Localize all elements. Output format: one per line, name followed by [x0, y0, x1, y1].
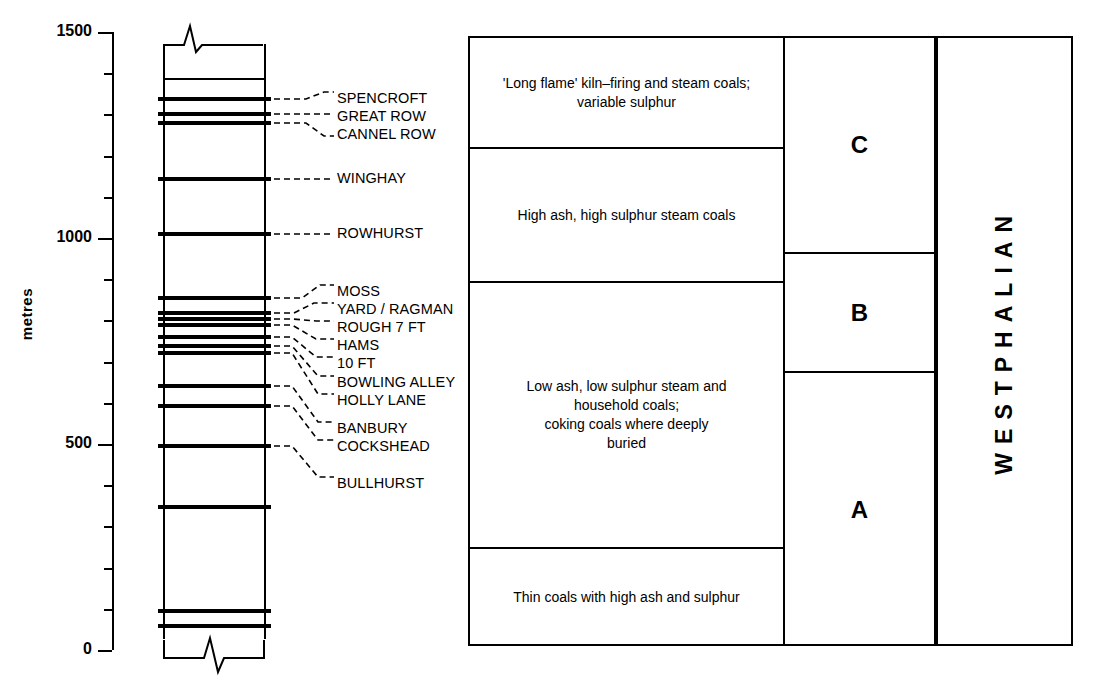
coal-seam-band	[158, 112, 271, 116]
coal-seam-band	[158, 624, 271, 628]
description-text: 'Long flame' kiln–firing and steam coals…	[493, 74, 760, 112]
description-cell: 'Long flame' kiln–firing and steam coals…	[470, 38, 783, 147]
coal-seam-band	[158, 505, 271, 509]
seam-label: ROWHURST	[337, 225, 423, 241]
axis-tick-major	[98, 444, 112, 446]
log-column-right-edge	[264, 44, 266, 639]
seam-label: ROUGH 7 FT	[337, 319, 426, 335]
axis-tick-label: 1500	[34, 22, 92, 40]
log-column-left-edge	[163, 44, 165, 639]
axis-tick-minor	[104, 485, 112, 487]
seam-label: GREAT ROW	[337, 108, 426, 124]
seam-label: BANBURY	[337, 420, 408, 436]
coal-seam-band	[158, 311, 271, 315]
axis-tick-major	[98, 650, 112, 652]
coal-seam-band	[158, 296, 271, 300]
seam-label: 10 FT	[337, 355, 375, 371]
coal-seam-band	[158, 97, 271, 101]
seam-label: COCKSHEAD	[337, 438, 430, 454]
seam-label: HOLLY LANE	[337, 392, 426, 408]
axis-tick-minor	[104, 609, 112, 611]
stage-cell-b: B	[785, 254, 934, 371]
stage-letter: A	[851, 496, 868, 524]
axis-spine	[112, 32, 114, 650]
description-cell: High ash, high sulphur steam coals	[470, 149, 783, 281]
axis-title-metres: metres	[18, 288, 35, 340]
coal-seam-band	[158, 444, 271, 448]
axis-tick-minor	[104, 403, 112, 405]
axis-tick-minor	[104, 197, 112, 199]
coal-seam-band	[158, 344, 271, 348]
axis-tick-minor	[104, 526, 112, 528]
seam-label: YARD / RAGMAN	[337, 301, 453, 317]
period-panel: WESTPHALIAN	[936, 36, 1073, 646]
axis-tick-minor	[104, 156, 112, 158]
coal-seam-band	[158, 323, 271, 327]
bottom-break-zigzag-icon	[160, 632, 272, 677]
period-name: WESTPHALIAN	[991, 207, 1018, 475]
stratigraphic-column-figure: metres 1500 1000 500 0	[0, 0, 1102, 682]
seam-label: HAMS	[337, 337, 379, 353]
seam-label: CANNEL ROW	[337, 126, 436, 142]
log-internal-line	[163, 78, 266, 80]
axis-tick-minor	[104, 114, 112, 116]
coal-seam-band	[158, 609, 271, 613]
description-text: High ash, high sulphur steam coals	[508, 206, 746, 225]
coal-seam-band	[158, 404, 271, 408]
coal-seam-band	[158, 335, 271, 339]
seam-label: WINGHAY	[337, 170, 406, 186]
description-cell: Low ash, low sulphur steam and household…	[470, 283, 783, 547]
axis-tick-minor	[104, 320, 112, 322]
coal-seam-band	[158, 317, 271, 321]
axis-tick-major	[98, 32, 112, 34]
coal-seam-band	[158, 384, 271, 388]
seam-label: SPENCROFT	[337, 90, 427, 106]
seam-label: BOWLING ALLEY	[337, 374, 455, 390]
coal-seam-band	[158, 177, 271, 181]
stage-letter: B	[851, 299, 868, 327]
axis-tick-label: 0	[34, 640, 92, 658]
axis-tick-minor	[104, 73, 112, 75]
coal-seam-band	[158, 121, 271, 125]
description-text: Thin coals with high ash and sulphur	[503, 588, 749, 607]
stage-cell-a: A	[785, 373, 934, 646]
axis-tick-label: 1000	[34, 228, 92, 246]
seam-label: MOSS	[337, 283, 380, 299]
axis-tick-minor	[104, 279, 112, 281]
description-text: Low ash, low sulphur steam and household…	[517, 377, 737, 453]
top-break-zigzag-icon	[160, 22, 270, 62]
axis-tick-minor	[104, 362, 112, 364]
axis-tick-minor	[104, 568, 112, 570]
stage-cell-c: C	[785, 38, 934, 252]
seam-label: BULLHURST	[337, 475, 424, 491]
axis-tick-major	[98, 238, 112, 240]
stage-letter: C	[851, 131, 868, 159]
coal-seam-band	[158, 232, 271, 236]
description-cell: Thin coals with high ash and sulphur	[470, 549, 783, 646]
axis-tick-label: 500	[34, 434, 92, 452]
coal-seam-band	[158, 351, 271, 355]
